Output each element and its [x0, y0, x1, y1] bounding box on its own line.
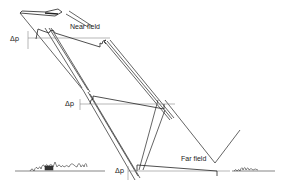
aircraft-icon [20, 9, 62, 16]
trees-and-buildings-left [30, 162, 87, 171]
ground [15, 162, 275, 171]
near-field-label: Near field [70, 23, 100, 30]
trees-and-buildings-right [234, 168, 258, 172]
dp-label-top: Δp [10, 35, 20, 43]
dp-label-mid: Δp [65, 100, 75, 108]
dp-label-bottom: Δp [115, 167, 125, 175]
far-field-signature: Δp Far field [115, 155, 230, 180]
shock-rays [20, 11, 240, 180]
sonic-boom-diagram: Δp Near field Δp Δp Far field [0, 0, 282, 187]
far-field-label: Far field [181, 155, 206, 162]
